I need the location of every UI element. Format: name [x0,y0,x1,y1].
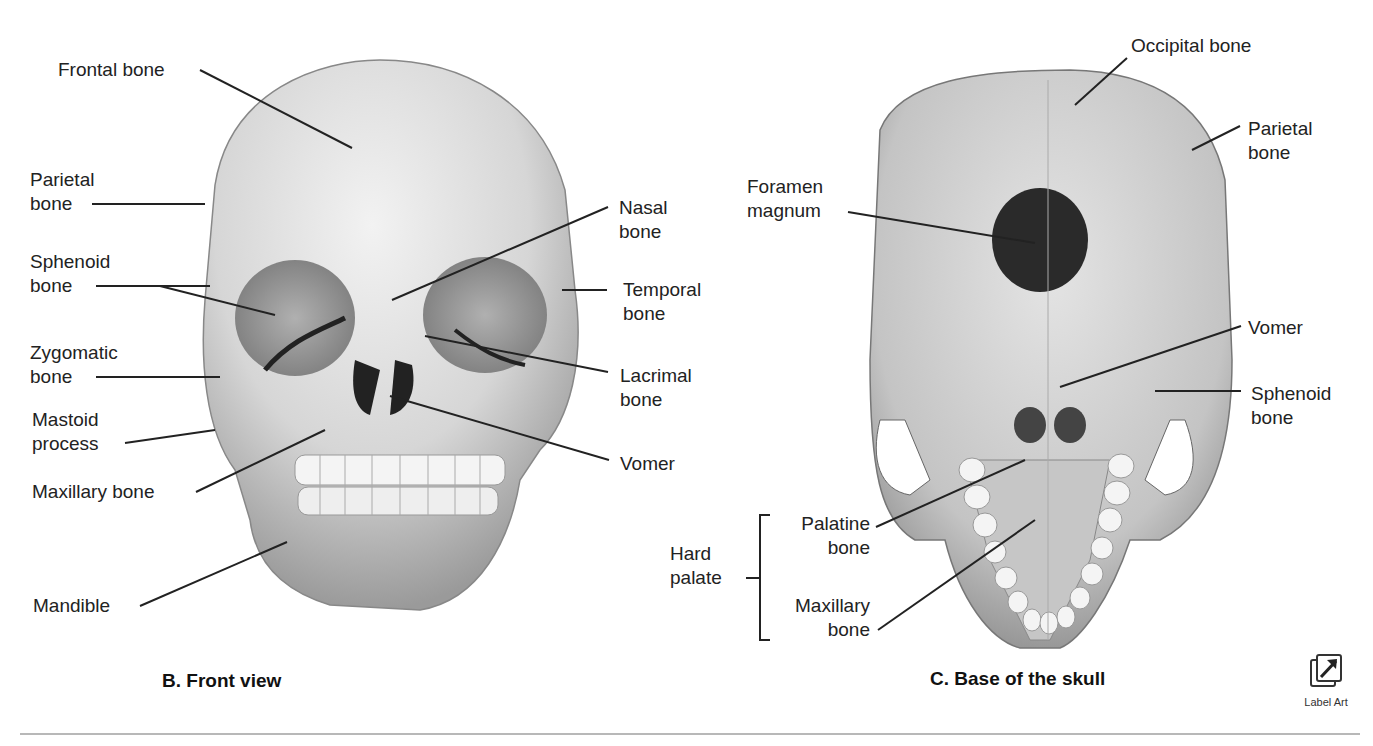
label-nasal-bone: Nasal bone [619,196,668,244]
label-temporal-bone: Temporal bone [623,278,701,326]
caption-front-view: B. Front view [162,670,281,692]
label-maxillary-bone-base: Maxillary bone [770,594,870,642]
caption-base-of-skull: C. Base of the skull [930,668,1105,690]
label-frontal-bone: Frontal bone [58,58,165,82]
label-palatine-bone: Palatine bone [780,512,870,560]
label-zygomatic-bone: Zygomatic bone [30,341,118,389]
label-sphenoid-bone-front: Sphenoid bone [30,250,110,298]
label-hard-palate: Hard palate [670,542,722,590]
label-art-button[interactable]: Label Art [1296,654,1356,708]
label-mastoid-process: Mastoid process [32,408,99,456]
label-mandible: Mandible [33,594,110,618]
label-vomer-base: Vomer [1248,316,1303,340]
label-lacrimal-bone: Lacrimal bone [620,364,692,412]
label-parietal-bone-base: Parietal bone [1248,117,1312,165]
label-foramen-magnum: Foramen magnum [747,175,823,223]
bottom-divider [20,733,1360,735]
label-maxillary-bone-front: Maxillary bone [32,480,155,504]
label-parietal-bone-front: Parietal bone [30,168,94,216]
base-view-skull [870,70,1232,648]
label-art-arrow-icon [1309,654,1343,690]
label-art-text: Label Art [1296,696,1356,708]
label-occipital-bone: Occipital bone [1131,34,1251,58]
front-view-skull [203,60,578,610]
label-vomer-front: Vomer [620,452,675,476]
label-sphenoid-bone-base: Sphenoid bone [1251,382,1331,430]
